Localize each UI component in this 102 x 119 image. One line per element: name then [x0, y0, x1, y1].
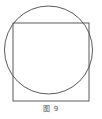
diagram-background	[0, 0, 102, 104]
geometry-diagram	[0, 0, 102, 104]
figure-container: 图 9	[0, 0, 102, 119]
figure-caption: 图 9	[0, 104, 102, 114]
